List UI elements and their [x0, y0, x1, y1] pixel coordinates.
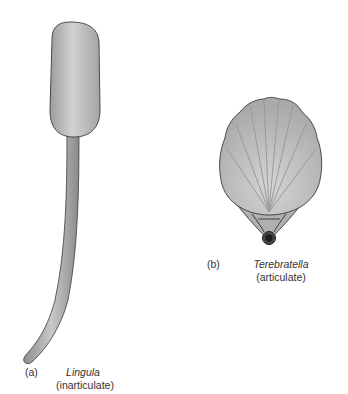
- terebratella-illustration: [220, 97, 322, 244]
- lingula-pedicle: [24, 132, 79, 364]
- figure-b-type: (articulate): [248, 271, 314, 284]
- brachiopod-illustrations: [0, 0, 348, 394]
- figure-b-letter: (b): [207, 258, 220, 271]
- figure-a-letter: (a): [25, 366, 38, 379]
- figure-a-type: (inarticulate): [45, 379, 125, 392]
- figure-a-genus: Lingula: [58, 366, 108, 379]
- lingula-illustration: [24, 22, 100, 364]
- lingula-shell: [50, 22, 100, 137]
- figure-b-genus: Terebratella: [248, 258, 314, 271]
